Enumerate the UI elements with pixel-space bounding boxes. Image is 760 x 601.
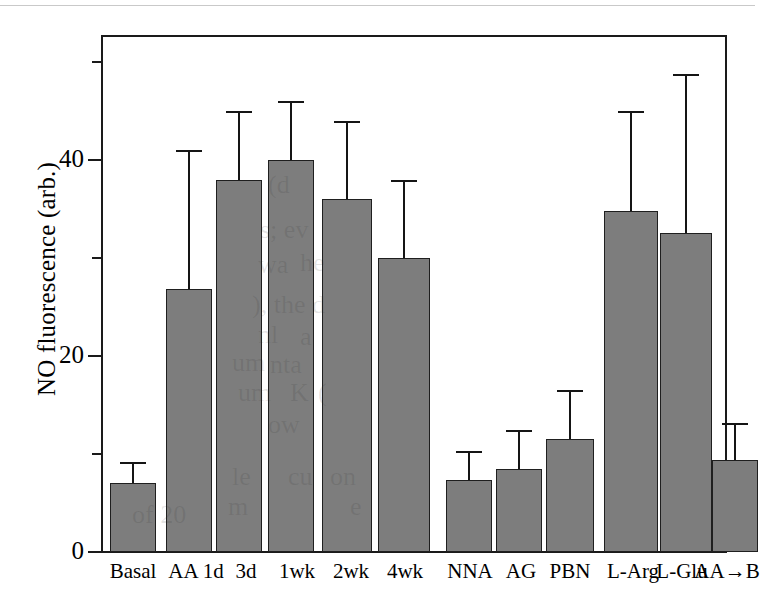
x-tick-label: 3d [236, 560, 257, 583]
x-tick-label: 1wk [279, 560, 315, 583]
y-tick-label: 40 [28, 146, 84, 171]
x-tick-label: Basal [110, 560, 157, 583]
x-tick-label: AA→B [694, 560, 759, 583]
x-tick-label: 2wk [333, 560, 369, 583]
plot-frame [101, 35, 727, 553]
y-tick-major [88, 159, 101, 161]
x-tick-label: L-Arg [607, 560, 659, 583]
y-tick-label: 20 [28, 342, 84, 367]
y-tick-major [88, 355, 101, 357]
x-tick-label: AA 1d [168, 560, 223, 583]
y-tick-label: 0 [28, 538, 84, 563]
y-tick-major [88, 551, 101, 553]
x-tick-label: NNA [447, 560, 493, 583]
x-tick-label: AG [506, 560, 536, 583]
y-tick-minor [92, 453, 101, 455]
error-bar-stem [734, 423, 736, 460]
page-edge-line [0, 5, 755, 6]
x-tick-label: 4wk [387, 560, 423, 583]
y-tick-minor [92, 61, 101, 63]
x-tick-label: PBN [550, 560, 591, 583]
y-tick-minor [92, 257, 101, 259]
